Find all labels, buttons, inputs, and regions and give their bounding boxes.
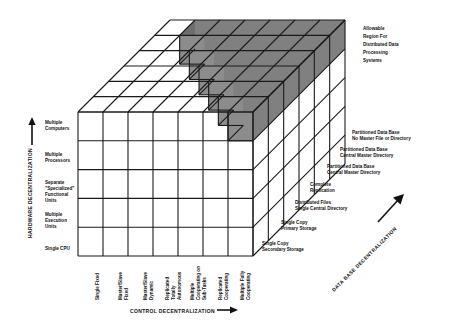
svg-text:Dynamic: Dynamic (149, 280, 154, 300)
svg-text:Distributed Files: Distributed Files (295, 200, 331, 205)
control-tick-6: Multiple Fully Cooperating (240, 270, 251, 300)
svg-text:Autonomous: Autonomous (177, 271, 182, 300)
database-tick-5: Partitioned Data Base Central Master Dir… (340, 147, 394, 158)
svg-text:Distributed Data: Distributed Data (363, 42, 399, 47)
svg-text:Cooperating: Cooperating (224, 273, 229, 300)
svg-text:Multiple: Multiple (45, 212, 63, 217)
svg-text:Processing: Processing (363, 50, 388, 55)
database-tick-4: Partitioned Data Base Central Master Dir… (327, 164, 381, 175)
svg-text:Replicated: Replicated (165, 277, 170, 300)
svg-text:Replicated: Replicated (218, 277, 223, 300)
svg-text:Multiple: Multiple (190, 282, 195, 300)
svg-text:Central Master Directory: Central Master Directory (327, 170, 381, 175)
svg-text:Complete: Complete (310, 182, 331, 187)
svg-text:Processors: Processors (45, 158, 70, 163)
svg-text:Master/Slave: Master/Slave (118, 271, 123, 300)
svg-text:Cooperating on: Cooperating on (196, 266, 201, 300)
svg-text:Single Central Directory: Single Central Directory (295, 206, 348, 211)
svg-text:Partitioned Data Base: Partitioned Data Base (340, 147, 388, 152)
svg-text:Units: Units (45, 198, 57, 203)
svg-text:Multiple: Multiple (45, 152, 63, 157)
svg-text:Multiple Fully: Multiple Fully (240, 270, 245, 300)
hardware-axis-title: HARDWARE DECENTRALIZATION (27, 148, 33, 238)
control-axis-title: CONTROL DECENTRALIZATION (130, 308, 215, 314)
hardware-tick-4: Single CPU (45, 246, 70, 251)
svg-text:Primary Storage: Primary Storage (281, 226, 317, 231)
svg-text:"Specialized": "Specialized" (45, 186, 74, 191)
svg-text:Secondary Storage: Secondary Storage (262, 247, 304, 252)
svg-text:Separate: Separate (45, 180, 65, 185)
svg-text:Single CPU: Single CPU (45, 246, 70, 251)
svg-text:Fixed: Fixed (124, 288, 129, 300)
svg-text:Sub-Tasks: Sub-Tasks (202, 277, 207, 300)
svg-text:Master/Slave: Master/Slave (143, 271, 148, 300)
svg-text:Cooperating: Cooperating (246, 273, 251, 300)
svg-text:Execution: Execution (45, 218, 67, 223)
svg-text:Partitioned Data Base: Partitioned Data Base (352, 130, 400, 135)
svg-text:Single Copy: Single Copy (262, 241, 289, 246)
svg-text:Multiple: Multiple (45, 120, 63, 125)
svg-text:Single Copy: Single Copy (281, 220, 308, 225)
svg-text:Partitioned Data Base: Partitioned Data Base (327, 164, 375, 169)
svg-text:Units: Units (45, 224, 57, 229)
svg-text:No Master File or Directory: No Master File or Directory (352, 136, 411, 141)
svg-text:Functional: Functional (45, 192, 68, 197)
svg-text:Systems: Systems (363, 58, 382, 63)
svg-text:Region For: Region For (363, 34, 387, 39)
control-tick-0: Single Fixed (95, 273, 100, 300)
svg-text:Central Master Directory: Central Master Directory (340, 153, 394, 158)
svg-text:Computers: Computers (45, 126, 70, 131)
svg-text:Single Fixed: Single Fixed (95, 273, 100, 300)
svg-text:Totally: Totally (171, 285, 176, 300)
diagram-canvas: HARDWARE DECENTRALIZATION Multiple Compu… (0, 0, 452, 331)
svg-text:Replication: Replication (310, 188, 335, 193)
control-tick-5: Replicated Cooperating (218, 273, 229, 300)
svg-text:Allowable: Allowable (363, 26, 385, 31)
